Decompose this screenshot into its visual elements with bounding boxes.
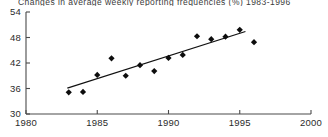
y-tick-label: 54: [10, 6, 21, 17]
data-point: [237, 27, 243, 33]
x-tick-label: 1980: [15, 117, 37, 128]
y-axis-ticks: [26, 12, 30, 114]
data-point: [123, 73, 129, 79]
data-point: [137, 62, 143, 68]
y-tick-label: 36: [10, 83, 21, 94]
data-point: [80, 89, 86, 95]
x-axis-tick-labels: 19801985199019952000: [15, 117, 322, 128]
plot-axes: [26, 12, 311, 114]
data-point: [66, 89, 72, 95]
data-point: [151, 68, 157, 74]
chart-container: Changes in average weekly reporting freq…: [0, 0, 328, 137]
x-tick-label: 1985: [86, 117, 108, 128]
x-tick-label: 1990: [158, 117, 180, 128]
y-tick-label: 48: [10, 32, 21, 43]
y-tick-label: 42: [10, 57, 21, 68]
x-axis-ticks: [26, 110, 311, 114]
y-axis-tick-labels: 3036424854: [10, 6, 21, 119]
x-tick-label: 2000: [300, 117, 322, 128]
trend-line: [67, 32, 245, 89]
scatter-plot: 3036424854 19801985199019952000: [0, 0, 328, 137]
data-point: [108, 55, 114, 61]
data-point: [194, 33, 200, 39]
data-point: [94, 72, 100, 78]
x-tick-label: 1995: [229, 117, 251, 128]
data-point: [251, 39, 257, 45]
